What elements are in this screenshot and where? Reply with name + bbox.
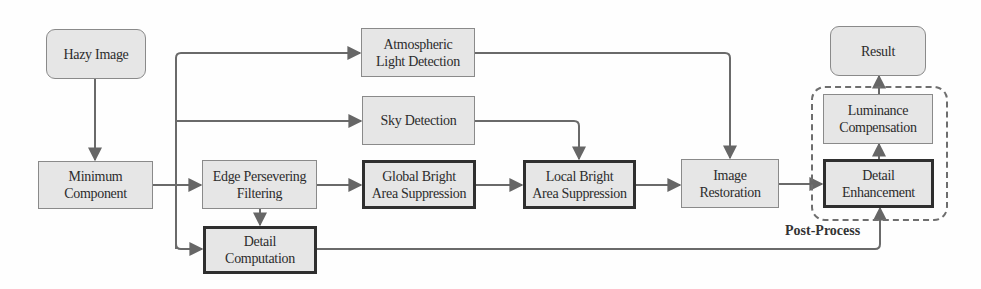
minimum-component-node: Minimum Component xyxy=(38,161,153,209)
local-bright-area-suppression-node: Local Bright Area Suppression xyxy=(523,160,636,209)
pipeline-diagram: Hazy Image Minimum Component Atmospheric… xyxy=(0,0,981,289)
post-process-label: Post-Process xyxy=(785,223,860,239)
global-bright-area-suppression-node: Global Bright Area Suppression xyxy=(362,160,476,209)
result-node: Result xyxy=(830,26,926,76)
hazy-image-node: Hazy Image xyxy=(46,29,146,79)
atmospheric-light-detection-node: Atmospheric Light Detection xyxy=(361,28,475,77)
image-restoration-node: Image Restoration xyxy=(681,159,779,208)
luminance-compensation-node: Luminance Compensation xyxy=(823,94,933,144)
edge-persevering-filtering-node: Edge Persevering Filtering xyxy=(202,160,317,209)
sky-detection-node: Sky Detection xyxy=(362,96,475,145)
detail-computation-node: Detail Computation xyxy=(203,226,317,274)
detail-enhancement-node: Detail Enhancement xyxy=(823,159,934,208)
